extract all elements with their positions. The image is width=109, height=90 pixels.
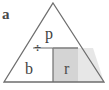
geometry-figure: a p ÷ b r — [0, 0, 109, 90]
label-p: p — [45, 26, 53, 42]
label-a: a — [2, 7, 10, 22]
label-b: b — [25, 61, 33, 77]
division-symbol-label: ÷ — [34, 41, 41, 54]
figure-canvas — [0, 0, 109, 90]
label-r: r — [64, 61, 69, 77]
